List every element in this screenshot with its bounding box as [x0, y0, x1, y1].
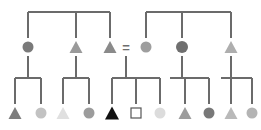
pedigree-node-circle[interactable] — [204, 108, 215, 119]
pedigree-symbols — [0, 0, 261, 130]
pedigree-node-triangle[interactable] — [9, 107, 22, 119]
pedigree-node-circle[interactable] — [155, 108, 166, 119]
pedigree-node-circle[interactable] — [176, 41, 188, 53]
pedigree-node-square[interactable] — [131, 108, 141, 118]
pedigree-node-circle[interactable] — [141, 42, 152, 53]
pedigree-node-circle[interactable] — [247, 108, 258, 119]
pedigree-node-triangle[interactable] — [104, 41, 117, 53]
pedigree-canvas: = — [0, 0, 261, 130]
pedigree-node-triangle[interactable] — [225, 107, 238, 119]
pedigree-node-triangle[interactable] — [225, 41, 238, 53]
pedigree-node-circle[interactable] — [36, 108, 47, 119]
pedigree-node-circle[interactable] — [84, 108, 95, 119]
mating-equals-symbol: = — [122, 41, 130, 54]
pedigree-node-circle[interactable] — [23, 42, 34, 53]
pedigree-node-triangle[interactable] — [105, 107, 119, 120]
pedigree-node-triangle[interactable] — [70, 41, 83, 53]
pedigree-node-triangle[interactable] — [57, 107, 70, 119]
pedigree-node-triangle[interactable] — [179, 107, 192, 119]
